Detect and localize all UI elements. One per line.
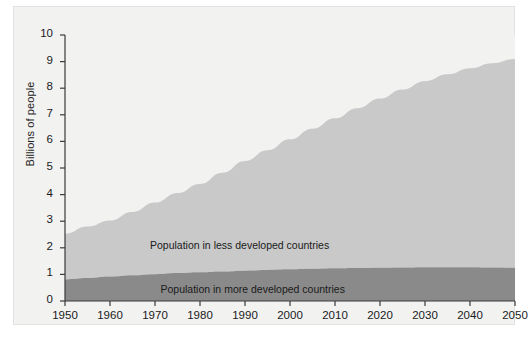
x-tick-label: 1950 (42, 309, 88, 321)
x-tick-label: 1960 (87, 309, 133, 321)
y-axis-ticks (60, 35, 65, 301)
figure-container: Billions of people 012345678910 19501960… (0, 0, 530, 344)
x-tick-label: 2040 (447, 309, 493, 321)
y-tick-label: 4 (31, 187, 53, 199)
x-tick-label: 2010 (312, 309, 358, 321)
x-tick-label: 1990 (222, 309, 268, 321)
y-tick-label: 2 (31, 240, 53, 252)
y-tick-label: 5 (31, 160, 53, 172)
y-tick-label: 8 (31, 80, 53, 92)
plot-wrapper: Billions of people 012345678910 19501960… (0, 0, 530, 344)
y-tick-label: 9 (31, 54, 53, 66)
y-tick-label: 6 (31, 133, 53, 145)
x-tick-label: 1970 (132, 309, 178, 321)
x-tick-label: 2050 (492, 309, 530, 321)
x-tick-label: 2000 (267, 309, 313, 321)
y-tick-label: 7 (31, 107, 53, 119)
y-tick-label: 10 (31, 27, 53, 39)
series-label-more-developed: Population in more developed countries (161, 283, 345, 295)
x-tick-label: 1980 (177, 309, 223, 321)
series-label-less-developed: Population in less developed countries (150, 239, 329, 251)
y-tick-label: 1 (31, 266, 53, 278)
x-axis-ticks (65, 301, 515, 306)
x-tick-label: 2020 (357, 309, 403, 321)
y-tick-label: 3 (31, 213, 53, 225)
y-tick-label: 0 (31, 293, 53, 305)
y-axis-title: Billions of people (24, 54, 36, 194)
x-tick-label: 2030 (402, 309, 448, 321)
